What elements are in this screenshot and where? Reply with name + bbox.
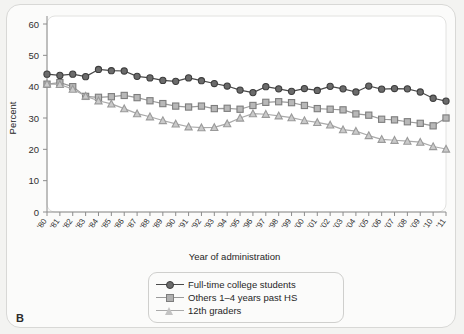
data-point — [340, 86, 346, 92]
legend-label: Full-time college students — [188, 278, 296, 291]
data-point — [173, 103, 179, 109]
data-point — [366, 83, 372, 89]
y-tick-label: 0 — [34, 207, 39, 218]
legend-item-12th-graders: 12th graders — [156, 304, 335, 317]
x-tick-label: '81 — [48, 217, 62, 231]
chart-legend: Full-time college students Others 1–4 ye… — [148, 272, 344, 323]
x-tick-label: '95 — [228, 217, 242, 231]
data-point — [391, 117, 397, 123]
data-point — [108, 68, 114, 74]
data-point — [173, 78, 179, 84]
y-tick-label: 40 — [28, 81, 39, 92]
data-point — [160, 77, 166, 83]
y-tick-label: 50 — [28, 50, 39, 61]
data-point — [224, 105, 230, 111]
data-point — [250, 90, 256, 96]
data-point — [340, 107, 346, 113]
data-point — [288, 88, 294, 94]
x-tick-label: '86 — [113, 217, 127, 231]
y-axis-title: Percent — [7, 101, 18, 134]
data-point — [404, 86, 410, 92]
data-point — [404, 119, 410, 125]
x-tick-label: '01 — [306, 217, 320, 231]
y-tick-label: 10 — [28, 175, 39, 186]
data-point — [417, 120, 423, 126]
x-tick-label: '94 — [215, 217, 229, 231]
data-point — [353, 111, 359, 117]
data-point — [70, 71, 76, 77]
data-point — [237, 87, 243, 93]
x-tick-label: '09 — [409, 217, 423, 231]
data-point — [44, 71, 50, 77]
x-tick-label: '93 — [203, 217, 217, 231]
data-point — [276, 86, 282, 92]
legend-item-full-time-college-students: Full-time college students — [156, 278, 335, 291]
data-point — [366, 112, 372, 118]
data-point — [314, 106, 320, 112]
data-point — [95, 66, 101, 72]
plot-area — [47, 16, 446, 212]
data-point — [443, 98, 449, 104]
x-tick-label: '91 — [177, 217, 191, 231]
data-point — [314, 87, 320, 93]
data-point — [379, 116, 385, 122]
x-tick-label: '08 — [396, 217, 410, 231]
data-point — [250, 102, 256, 108]
data-point — [211, 106, 217, 112]
x-tick-label: '10 — [421, 217, 435, 231]
x-tick-label: '03 — [331, 217, 345, 231]
data-point — [121, 68, 127, 74]
x-tick-label: '92 — [190, 217, 204, 231]
x-tick-label: '84 — [87, 217, 101, 231]
x-axis-title: Year of administration — [189, 251, 281, 262]
x-tick-label: '98 — [267, 217, 281, 231]
y-tick-label: 20 — [28, 144, 39, 155]
data-point — [430, 123, 436, 129]
x-tick-label: '96 — [241, 217, 255, 231]
x-tick-label: '88 — [138, 217, 152, 231]
panel-letter: B — [16, 312, 24, 324]
legend-label: 12th graders — [188, 304, 241, 317]
legend-label: Others 1–4 years past HS — [188, 291, 297, 304]
legend-marker-circle-icon — [156, 278, 184, 291]
x-tick-label: '82 — [61, 217, 75, 231]
x-tick-label: '07 — [383, 217, 397, 231]
data-point — [198, 103, 204, 109]
legend-marker-square-icon — [156, 291, 184, 304]
data-point — [276, 99, 282, 105]
y-tick-label: 60 — [28, 19, 39, 30]
x-tick-label: '90 — [164, 217, 178, 231]
data-point — [147, 75, 153, 81]
data-point — [288, 100, 294, 106]
data-point — [263, 84, 269, 90]
x-tick-label: '87 — [125, 217, 139, 231]
legend-marker-triangle-icon — [156, 304, 184, 317]
data-point — [57, 72, 63, 78]
x-tick-label: '85 — [100, 217, 114, 231]
data-point — [327, 83, 333, 89]
data-point — [353, 89, 359, 95]
legend-item-others-1-4-years-past-hs: Others 1–4 years past HS — [156, 291, 335, 304]
data-point — [327, 106, 333, 112]
x-tick-label: '04 — [344, 217, 358, 231]
y-tick-label: 30 — [28, 113, 39, 124]
data-point — [185, 75, 191, 81]
data-point — [443, 115, 449, 121]
data-point — [198, 78, 204, 84]
data-point — [134, 73, 140, 79]
x-tick-label: '02 — [318, 217, 332, 231]
data-point — [263, 99, 269, 105]
x-tick-label: '00 — [293, 217, 307, 231]
data-point — [185, 104, 191, 110]
data-point — [83, 74, 89, 80]
x-tick-label: '05 — [357, 217, 371, 231]
x-tick-label: '89 — [151, 217, 165, 231]
data-point — [301, 102, 307, 108]
x-tick-label: '83 — [74, 217, 88, 231]
data-point — [379, 86, 385, 92]
x-tick-label: '97 — [254, 217, 268, 231]
data-point — [211, 80, 217, 86]
x-tick-label: '06 — [370, 217, 384, 231]
data-point — [391, 85, 397, 91]
data-point — [108, 94, 114, 100]
